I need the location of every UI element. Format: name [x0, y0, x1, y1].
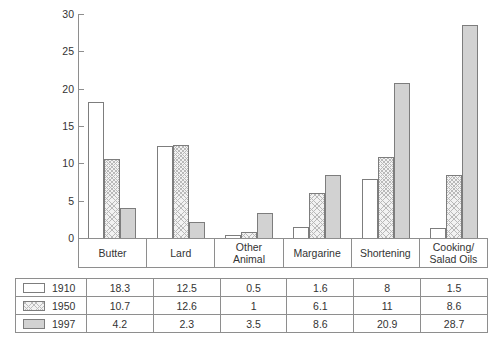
bar [173, 145, 189, 239]
legend-year-label: 1910 [52, 282, 75, 294]
table-cell: 2.3 [153, 315, 220, 333]
category-label: Cooking/Salad Oils [420, 239, 487, 267]
category-label-line: Salad Oils [430, 253, 478, 265]
table-cell: 1.6 [287, 279, 354, 297]
category-label-line: Shortening [360, 247, 411, 259]
bar [189, 222, 205, 239]
table-cell: 8.6 [287, 315, 354, 333]
category-label-line: Butter [99, 247, 127, 259]
category-label-line: Cooking/ [430, 241, 478, 253]
bar [157, 146, 173, 239]
category-label-line: Lard [170, 247, 191, 259]
bar [394, 83, 410, 239]
legend-swatch-icon [23, 319, 45, 329]
legend-swatch-icon [23, 301, 45, 311]
table-cell: 12.5 [153, 279, 220, 297]
legend-year-label: 1950 [52, 300, 75, 312]
table-cell: 1.5 [421, 279, 488, 297]
table-row: 191018.312.50.51.681.5 [16, 279, 488, 297]
table-cell: 6.1 [287, 297, 354, 315]
bar [88, 102, 104, 239]
table-cell: 0.5 [220, 279, 287, 297]
category-label-line: Other [233, 241, 265, 253]
bar [257, 213, 273, 239]
table-cell: 4.2 [87, 315, 154, 333]
legend-cell: 1997 [16, 315, 87, 333]
category-label: OtherAnimal [215, 239, 283, 267]
data-table: 191018.312.50.51.681.5195010.712.616.111… [15, 278, 488, 333]
bars-layer [0, 0, 503, 240]
bar [325, 175, 341, 239]
legend-swatch-icon [23, 283, 45, 293]
table-row: 195010.712.616.1118.6 [16, 297, 488, 315]
table-cell: 8 [354, 279, 421, 297]
bar [462, 25, 478, 239]
bar [309, 193, 325, 239]
bar [362, 179, 378, 239]
table-cell: 11 [354, 297, 421, 315]
category-label: Margarine [284, 239, 352, 267]
legend-cell: 1910 [16, 279, 87, 297]
table-row: 19974.22.33.58.620.928.7 [16, 315, 488, 333]
bar-chart-plot: 051015202530 [0, 0, 503, 240]
category-label-line: Animal [233, 253, 265, 265]
table-cell: 20.9 [354, 315, 421, 333]
category-label: Butter [79, 239, 147, 267]
table-cell: 3.5 [220, 315, 287, 333]
table-cell: 12.6 [153, 297, 220, 315]
legend-cell: 1950 [16, 297, 87, 315]
table-cell: 8.6 [421, 297, 488, 315]
category-header-strip: ButterLardOtherAnimalMargarineShortening… [78, 239, 488, 268]
bar [446, 175, 462, 239]
table-cell: 1 [220, 297, 287, 315]
table-cell: 18.3 [87, 279, 154, 297]
category-label-line: Margarine [293, 247, 340, 259]
category-label: Lard [147, 239, 215, 267]
legend-year-label: 1997 [52, 318, 75, 330]
category-label: Shortening [352, 239, 420, 267]
bar [104, 159, 120, 239]
bar [378, 157, 394, 239]
bar [120, 208, 136, 239]
table-cell: 10.7 [87, 297, 154, 315]
table-cell: 28.7 [421, 315, 488, 333]
